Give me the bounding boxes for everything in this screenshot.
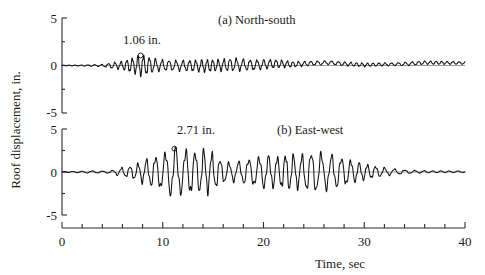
panel-b-title: (b) East-west [277,123,344,137]
x-axis-tick-labels: 010203040 [59,234,472,249]
panel-b-ytick-0: 0 [51,165,58,180]
x-axis: 010203040 Time, sec [59,222,472,271]
panel-b-peak-label: 2.71 in. [177,123,215,137]
panel-a-ytick-0: 0 [51,58,58,73]
panel-a-title: (a) North-south [218,13,296,27]
panel-a-peak-label: 1.06 in. [123,33,161,47]
y-axis-title: Roof displacement, in. [8,71,23,189]
figure-root: Roof displacement, in. 5 0 -5 (a) North-… [0,0,485,275]
panel-a-trace [62,55,465,77]
x-tick-label-10: 10 [156,234,169,249]
panel-a-ytick-5: 5 [51,11,58,26]
seismic-response-figure: Roof displacement, in. 5 0 -5 (a) North-… [0,0,485,275]
x-axis-ticks [62,222,465,228]
panel-b: 5 0 -5 (b) East-west 2.71 in. [46,122,465,223]
x-tick-label-20: 20 [257,234,270,249]
panel-b-ticks [62,129,465,215]
x-tick-label-0: 0 [59,234,66,249]
x-axis-title: Time, sec [315,256,365,271]
panel-b-trace [62,147,465,196]
panel-b-ytick-5: 5 [51,122,58,137]
panel-a-peak-marker [138,53,143,58]
x-tick-label-40: 40 [459,234,472,249]
x-tick-label-30: 30 [358,234,371,249]
panel-b-ytick--5: -5 [46,208,57,223]
panel-a-ytick--5: -5 [46,105,57,120]
panel-a: 5 0 -5 (a) North-south 1.06 in. [46,11,465,120]
